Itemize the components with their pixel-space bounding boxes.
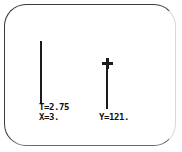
readout-t-value: T=2.75 [39,102,69,112]
readout-x-value: X=3. [39,112,59,122]
plus-marker-horizontal-stroke [102,62,113,65]
right-bar-mark [106,62,108,109]
plus-marker-icon [102,58,113,69]
plot-canvas: T=2.75 X=3. Y=121. [0,0,182,152]
left-bar-mark [40,41,42,104]
readout-y-value: Y=121. [99,112,129,122]
